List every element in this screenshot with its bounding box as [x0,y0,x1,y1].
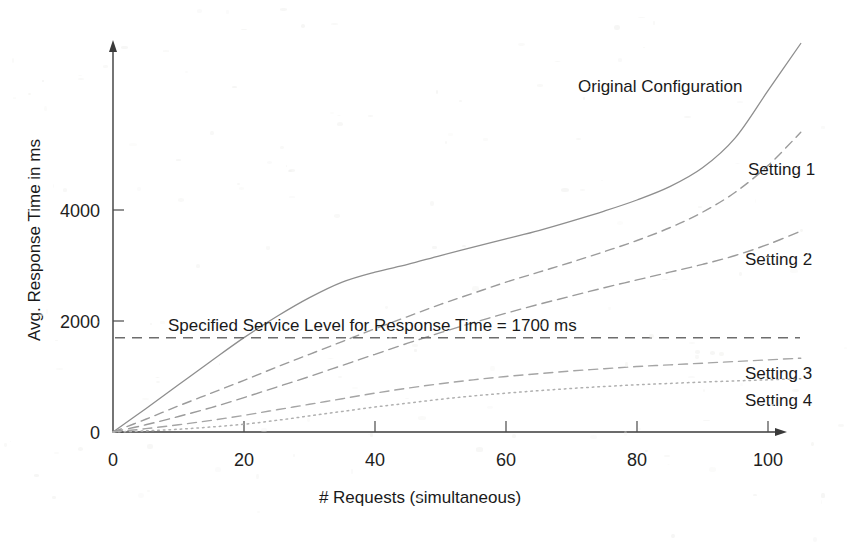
x-tick-label-40: 40 [365,450,385,470]
curve-setting-3 [113,358,801,432]
series-label-setting-2: Setting 2 [745,250,812,269]
series-label-setting-3: Setting 3 [745,364,812,383]
x-tick-label-80: 80 [627,450,647,470]
y-tick-label-2000: 2000 [60,312,100,332]
y-axis-arrow-icon [109,40,117,52]
x-tick-label-20: 20 [234,450,254,470]
service-level-threshold-label: Specified Service Level for Response Tim… [168,316,577,335]
series-label-setting-1: Setting 1 [748,160,815,179]
x-tick-label-100: 100 [753,450,783,470]
series-group [113,44,801,433]
y-axis-title: Avg. Response Time in ms [25,139,44,341]
x-axis-title: # Requests (simultaneous) [319,488,521,507]
y-tick-label-0: 0 [90,423,100,443]
curve-original-configuration [113,44,801,433]
series-label-original-configuration: Original Configuration [578,77,742,96]
chart-container: 0 2000 4000 0 20 40 60 80 100 Avg. Respo… [0,0,852,544]
response-time-line-chart: 0 2000 4000 0 20 40 60 80 100 Avg. Respo… [0,0,852,544]
x-tick-label-0: 0 [108,450,118,470]
x-tick-label-60: 60 [496,450,516,470]
curve-setting-1 [113,132,801,432]
y-axis [109,40,124,432]
x-axis [113,421,787,436]
series-label-setting-4: Setting 4 [745,391,812,410]
curve-setting-4 [113,379,801,432]
x-axis-arrow-icon [775,428,787,436]
y-tick-label-4000: 4000 [60,201,100,221]
